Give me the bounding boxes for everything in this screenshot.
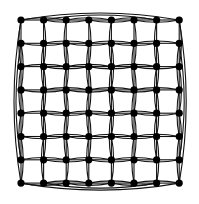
- graph-node: [63, 180, 70, 187]
- graph-node: [153, 180, 160, 187]
- graph-node: [108, 133, 115, 140]
- graph-node: [108, 40, 115, 47]
- graph-node: [130, 156, 137, 163]
- graph-node: [40, 63, 47, 70]
- graph-node: [63, 16, 70, 23]
- graph-node: [108, 156, 115, 163]
- graph-node: [176, 16, 183, 23]
- graph-node: [108, 110, 115, 117]
- graph-node: [17, 133, 24, 140]
- graph-node: [153, 156, 160, 163]
- graph-node: [63, 86, 70, 93]
- graph-node: [130, 16, 137, 23]
- graph-node: [108, 86, 115, 93]
- graph-node: [176, 133, 183, 140]
- graph-node: [176, 156, 183, 163]
- graph-node: [17, 63, 24, 70]
- graph-node: [85, 40, 92, 47]
- graph-node: [108, 63, 115, 70]
- graph-node: [153, 133, 160, 140]
- graph-node: [85, 16, 92, 23]
- graph-node: [85, 110, 92, 117]
- graph-node: [63, 110, 70, 117]
- graph-node: [40, 86, 47, 93]
- graph-node: [153, 40, 160, 47]
- graph-node: [40, 16, 47, 23]
- graph-node: [176, 86, 183, 93]
- graph-node: [40, 110, 47, 117]
- graph-node: [85, 180, 92, 187]
- graph-node: [130, 180, 137, 187]
- graph-node: [40, 156, 47, 163]
- graph-node: [85, 156, 92, 163]
- graph-node: [130, 110, 137, 117]
- graph-node: [63, 40, 70, 47]
- graph-node: [153, 63, 160, 70]
- graph-node: [176, 110, 183, 117]
- graph-node: [63, 133, 70, 140]
- graph-node: [63, 156, 70, 163]
- graph-node: [176, 40, 183, 47]
- graph-node: [17, 180, 24, 187]
- graph-node: [153, 110, 160, 117]
- graph-node: [176, 180, 183, 187]
- graph-node: [130, 133, 137, 140]
- graph-node: [63, 63, 70, 70]
- graph-node: [17, 156, 24, 163]
- graph-node: [130, 86, 137, 93]
- graph-node: [130, 40, 137, 47]
- graph-node: [40, 133, 47, 140]
- graph-node: [17, 86, 24, 93]
- graph-node: [108, 180, 115, 187]
- graph-node: [85, 63, 92, 70]
- grid-graph-diagram: [0, 0, 199, 204]
- graph-node: [17, 40, 24, 47]
- graph-node: [40, 180, 47, 187]
- graph-node: [130, 63, 137, 70]
- graph-node: [40, 40, 47, 47]
- graph-node: [85, 86, 92, 93]
- graph-node: [153, 86, 160, 93]
- graph-node: [153, 16, 160, 23]
- graph-node: [108, 16, 115, 23]
- graph-node: [85, 133, 92, 140]
- graph-node: [176, 63, 183, 70]
- graph-node: [17, 110, 24, 117]
- graph-edges: [14, 13, 186, 190]
- graph-node: [17, 16, 24, 23]
